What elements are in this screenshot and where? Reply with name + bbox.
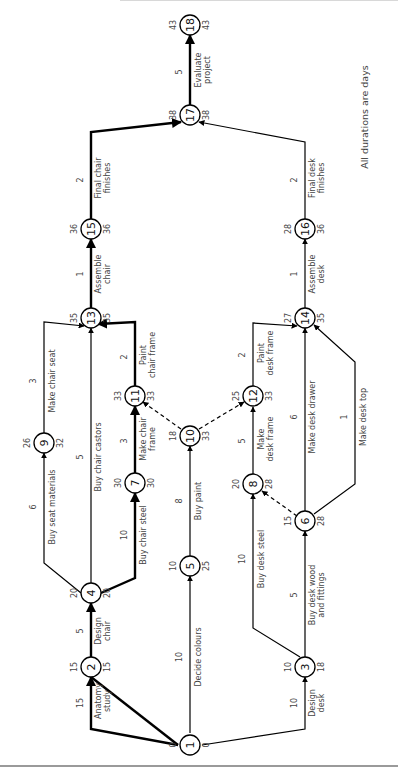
node-latest-time: 38: [202, 110, 211, 120]
node-earliest-time: 20: [70, 588, 79, 598]
activity-name: desk: [317, 264, 326, 283]
activity-name: Make desk top: [359, 388, 368, 446]
activity-name: Buy chair castors: [94, 422, 103, 491]
activity-name: chair frame: [148, 332, 157, 378]
node-10: 10 18 33: [169, 426, 211, 446]
activity-name: chair: [103, 263, 112, 284]
node-earliest-time: 35: [70, 313, 79, 323]
node-7: 7 30 30: [114, 473, 156, 493]
node-earliest-time: 10: [284, 662, 293, 672]
node-number: 1: [184, 742, 197, 749]
node-latest-time: 20: [103, 588, 112, 598]
node-latest-time: 36: [103, 224, 112, 234]
node-latest-time: 33: [202, 431, 211, 441]
edge-buy-chair-steel: [101, 493, 135, 593]
activity-name: chair: [103, 620, 112, 641]
network-diagram: 1 0 0 2 15 15 3 10 18 4 20 20: [0, 0, 398, 777]
edge-dummy-10-11: [143, 402, 181, 429]
activity-duration: 5: [76, 628, 85, 633]
nodes: 1 0 0 2 15 15 3 10 18 4 20 20: [23, 15, 326, 755]
activity-duration: 5: [76, 454, 85, 459]
node-earliest-time: 28: [284, 224, 293, 234]
activity-name: Make: [257, 428, 266, 449]
activity-name: finishes: [103, 163, 112, 194]
node-number: 11: [129, 389, 142, 403]
activity-name: Assemble: [94, 255, 103, 294]
activity-name: frame: [148, 427, 157, 451]
node-4: 4 20 20: [70, 583, 112, 603]
activity-duration: 1: [290, 271, 299, 276]
node-latest-time: 0: [202, 742, 211, 747]
node-3: 3 10 18: [284, 657, 326, 677]
node-6: 6 15 28: [284, 511, 326, 531]
activity-duration: 10: [290, 698, 299, 708]
node-latest-time: 33: [265, 391, 274, 401]
node-12: 12 25 33: [232, 386, 274, 406]
node-latest-time: 36: [317, 224, 326, 234]
activity-duration: 3: [120, 438, 129, 443]
activity-name: Evaluate: [194, 52, 203, 87]
activity-name: Buy chair steel: [139, 505, 148, 565]
node-earliest-time: 15: [70, 662, 79, 672]
node-number: 18: [184, 18, 197, 32]
node-number: 13: [85, 311, 98, 325]
node-earliest-time: 26: [23, 438, 32, 448]
node-earliest-time: 33: [114, 391, 123, 401]
activity-name: Make chair: [139, 417, 148, 461]
node-earliest-time: 43: [169, 20, 178, 30]
activity-duration: 5: [238, 438, 247, 443]
node-18: 18 43 43: [169, 15, 211, 35]
node-latest-time: 25: [202, 561, 211, 571]
node-number: 8: [247, 481, 260, 488]
activity-duration: 2: [238, 352, 247, 357]
activity-name: Paint: [139, 345, 148, 365]
node-number: 3: [299, 664, 312, 671]
activity-name: project: [203, 56, 212, 84]
node-number: 14: [299, 311, 312, 325]
node-latest-time: 18: [317, 662, 326, 672]
activity-labels: 15 Anatomy study 5 Design chair 10 Decid…: [29, 52, 370, 719]
activity-name: desk frame: [266, 330, 275, 375]
activity-name: Anatomy: [94, 683, 103, 719]
node-latest-time: 35: [103, 313, 112, 323]
node-number: 2: [85, 664, 98, 671]
node-earliest-time: 25: [232, 391, 241, 401]
node-number: 7: [129, 480, 142, 487]
node-earliest-time: 38: [169, 110, 178, 120]
activity-duration: 1: [76, 271, 85, 276]
activity-duration: 2: [76, 177, 85, 182]
activity-name: study: [103, 690, 112, 712]
node-earliest-time: 10: [169, 561, 178, 571]
activity-name: Design: [308, 689, 317, 717]
node-earliest-time: 27: [284, 313, 293, 323]
activity-duration: 5: [175, 69, 184, 74]
node-earliest-time: 36: [70, 224, 79, 234]
node-number: 17: [184, 108, 197, 122]
node-earliest-time: 30: [114, 478, 123, 488]
node-latest-time: 15: [103, 662, 112, 672]
activity-name: Decide colours: [194, 627, 203, 686]
node-16: 16 28 36: [284, 219, 326, 239]
activity-name: Paint: [257, 343, 266, 363]
activity-name: Buy seat materials: [48, 469, 57, 544]
node-latest-time: 43: [202, 20, 211, 30]
bottom-border: [0, 765, 398, 767]
activity-duration: 2: [120, 354, 129, 359]
node-number: 16: [299, 222, 312, 236]
node-latest-time: 32: [56, 438, 65, 448]
node-earliest-time: 15: [284, 516, 293, 526]
edge-final-desk-finishes: [199, 122, 305, 219]
activity-duration: 3: [29, 378, 38, 383]
node-2: 2 15 15: [70, 657, 112, 677]
activity-duration: 5: [290, 592, 299, 597]
node-number: 10: [184, 429, 197, 443]
node-number: 5: [184, 563, 197, 570]
activity-name: Buy desk steel: [257, 530, 266, 589]
node-9: 9 26 32: [23, 433, 65, 453]
edge-design-desk: [202, 677, 305, 745]
node-15: 15 36 36: [70, 219, 112, 239]
node-11: 11 33 33: [114, 386, 156, 406]
node-number: 4: [85, 590, 98, 597]
node-latest-time: 33: [147, 391, 156, 401]
activity-name: Assemble: [308, 255, 317, 294]
